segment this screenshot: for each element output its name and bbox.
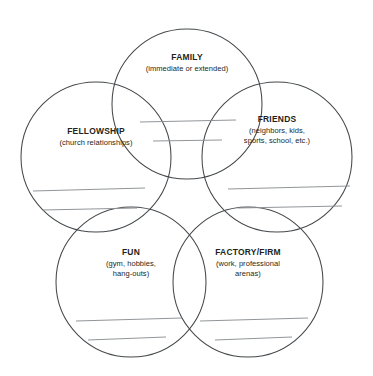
writing-line-friends-1[interactable] [228, 186, 350, 189]
circle-outline-friends [202, 82, 352, 232]
circle-outline-factory-firm [173, 207, 323, 357]
writing-line-fellowship-1[interactable] [33, 188, 145, 191]
circle-outlines-group [21, 29, 352, 357]
circle-outline-family [112, 29, 262, 179]
writing-line-factory-firm-2[interactable] [215, 337, 292, 340]
diagram-vector-layer [0, 0, 373, 376]
writing-line-fun-1[interactable] [76, 318, 182, 321]
writing-line-factory-firm-1[interactable] [200, 318, 308, 321]
writing-line-family-1[interactable] [140, 120, 236, 122]
writing-line-fun-2[interactable] [88, 337, 166, 340]
writing-line-family-2[interactable] [153, 140, 222, 141]
writing-line-fellowship-2[interactable] [43, 208, 137, 210]
five-circles-diagram: FAMILY(immediate or extended)FRIENDS(nei… [0, 0, 373, 376]
